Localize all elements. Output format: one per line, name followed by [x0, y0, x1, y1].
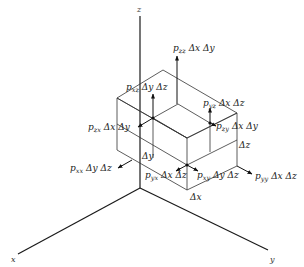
label-pyx: pyxΔx Δz — [145, 170, 187, 182]
stress-element-diagram: z x y Δy Δz Δx — [0, 0, 304, 267]
force-arrows — [118, 56, 252, 174]
dx-dimension-label: Δx — [189, 192, 202, 202]
label-pyz: pyzΔx Δz — [203, 98, 245, 110]
label-pyy: pyyΔx Δz — [255, 171, 297, 183]
force-labels: pzzΔx Δy pxzΔy Δz pyzΔx Δz pzyΔx Δy pzxΔ… — [70, 43, 297, 183]
label-pxy: pxyΔy Δz — [197, 170, 239, 182]
label-pxz: pxzΔy Δz — [126, 82, 168, 94]
x-axis — [18, 188, 140, 254]
label-pxx: pxxΔy Δz — [70, 163, 112, 175]
y-axis-label: y — [269, 255, 275, 264]
x-axis-label: x — [11, 255, 16, 264]
dz-dimension-label: Δz — [238, 140, 250, 150]
y-axis — [140, 188, 268, 250]
label-pzz: pzzΔx Δy — [173, 43, 216, 55]
dy-dimension-label: Δy — [141, 151, 154, 161]
z-axis-label: z — [136, 5, 142, 14]
coordinate-axes: z x y — [11, 5, 275, 264]
label-pzy: pzyΔx Δy — [216, 121, 259, 133]
label-pzx: pzxΔx Δy — [88, 122, 131, 134]
